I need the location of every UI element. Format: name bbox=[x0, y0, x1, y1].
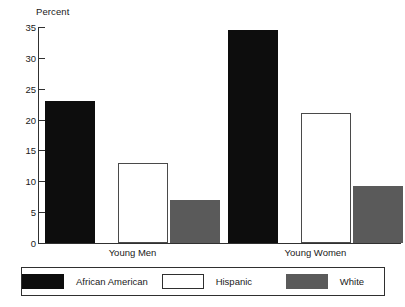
legend-entry-white: White bbox=[266, 274, 384, 289]
x-axis-label: Young Men bbox=[73, 247, 193, 258]
bar bbox=[228, 30, 278, 243]
y-tick-label: 25 bbox=[6, 83, 36, 94]
bar bbox=[118, 163, 168, 243]
y-tick-mark bbox=[38, 58, 45, 59]
legend-entry-african-american: African American bbox=[22, 274, 148, 289]
y-tick-label: 5 bbox=[6, 207, 36, 218]
y-tick-label: 15 bbox=[6, 145, 36, 156]
legend-label-hispanic: Hispanic bbox=[216, 276, 252, 287]
bar bbox=[301, 113, 351, 243]
legend-label-white: White bbox=[340, 276, 364, 287]
legend-swatch-hispanic bbox=[162, 274, 204, 289]
bar bbox=[353, 186, 403, 243]
y-tick-label: 20 bbox=[6, 114, 36, 125]
bar-chart: Percent 05101520253035 Young MenYoung Wo… bbox=[0, 0, 405, 307]
x-axis-label: Young Women bbox=[256, 247, 376, 258]
x-axis-line bbox=[38, 243, 401, 244]
y-tick-label: 35 bbox=[6, 22, 36, 33]
y-tick-label: 10 bbox=[6, 176, 36, 187]
legend-label-african-american: African American bbox=[76, 276, 148, 287]
chart-legend: African American Hispanic White bbox=[21, 267, 385, 296]
y-tick-label: 30 bbox=[6, 52, 36, 63]
y-axis-title: Percent bbox=[36, 6, 69, 17]
y-tick-mark bbox=[38, 181, 45, 182]
bar bbox=[45, 101, 95, 243]
y-tick-mark bbox=[38, 243, 45, 244]
y-tick-mark bbox=[38, 27, 45, 28]
legend-swatch-african-american bbox=[22, 274, 64, 289]
y-tick-mark bbox=[38, 150, 45, 151]
y-tick-mark bbox=[38, 120, 45, 121]
legend-entry-hispanic: Hispanic bbox=[148, 274, 266, 289]
bar bbox=[170, 200, 220, 243]
legend-swatch-white bbox=[286, 274, 328, 289]
y-tick-mark bbox=[38, 212, 45, 213]
y-tick-label: 0 bbox=[6, 238, 36, 249]
y-tick-mark bbox=[38, 89, 45, 90]
